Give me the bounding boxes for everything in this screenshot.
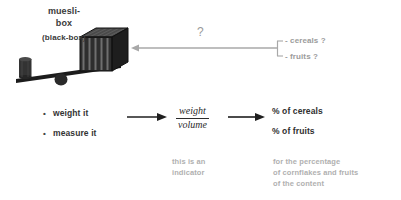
- left-arrow-icon: [131, 41, 283, 56]
- note-indicator-line1: this is an: [172, 157, 206, 168]
- right-arrow-icon-2: [228, 113, 265, 121]
- bullet-icon: •: [43, 129, 53, 138]
- action-label-measure: measure it: [53, 128, 97, 138]
- box-title-line1: muesli-: [32, 6, 96, 16]
- action-label-weight: weight it: [53, 108, 88, 118]
- note-percentage-line2: of cornflakes and fruits: [273, 168, 358, 179]
- box-subtitle: (black-box): [26, 33, 102, 42]
- result-percent-cereals: % of cereals: [272, 107, 323, 117]
- right-arrow-icon-1: [127, 113, 167, 121]
- note-percentage-line1: for the percentage: [273, 157, 340, 168]
- formula-denominator: volume: [176, 118, 209, 132]
- box-title-line2: box: [32, 18, 96, 28]
- action-item-weight: •weight it: [43, 108, 88, 118]
- diagram-slide: muesli- box (black-box) ? - cereals ? - …: [0, 0, 401, 200]
- cylinder-weight-icon: [19, 57, 32, 79]
- result-percent-fruits: % of fruits: [272, 127, 315, 137]
- note-percentage-line3: of the content: [273, 179, 324, 190]
- unknown-item-cereals: - cereals ?: [285, 36, 326, 45]
- unknown-item-fruits: - fruits ?: [285, 52, 318, 61]
- note-indicator-line2: indicator: [172, 168, 205, 179]
- bullet-icon: •: [43, 109, 53, 118]
- action-item-measure: •measure it: [43, 128, 97, 138]
- formula-weight-over-volume: weight volume: [176, 105, 209, 131]
- question-mark-label: ?: [197, 26, 204, 40]
- formula-numerator: weight: [176, 105, 209, 118]
